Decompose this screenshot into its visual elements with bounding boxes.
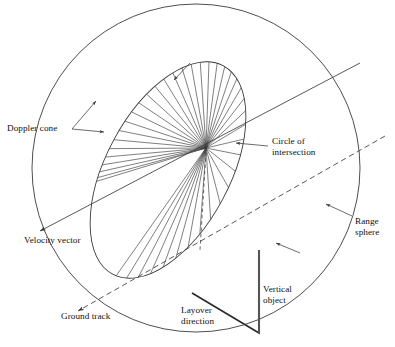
range-sphere-circle xyxy=(32,4,360,332)
diagram-canvas xyxy=(0,0,395,347)
cone-inner-arrow xyxy=(174,63,190,80)
label-vertical-object: Vertical object xyxy=(263,284,292,305)
doppler-cone-leader-2 xyxy=(72,101,96,129)
label-layover-direction: Layover direction xyxy=(181,305,214,326)
ground-track-line xyxy=(78,136,385,311)
label-doppler-cone: Doppler cone xyxy=(7,123,57,134)
label-velocity-vector: Velocity vector xyxy=(24,235,81,246)
circle-of-intersection-ellipse xyxy=(58,37,278,304)
doppler-cone-leader-1 xyxy=(72,129,104,132)
label-ground-track: Ground track xyxy=(61,311,110,322)
radar-geometry-figure: Doppler cone Circle of intersection Rang… xyxy=(0,0,395,347)
circle-of-intersection-leader xyxy=(236,143,268,146)
label-range-sphere: Range sphere xyxy=(355,216,379,237)
range-sphere-leader xyxy=(326,204,352,216)
doppler-cone-rays xyxy=(97,62,246,278)
range-sphere-leader-2 xyxy=(276,243,300,253)
label-circle-of-intersection: Circle of intersection xyxy=(272,136,315,157)
